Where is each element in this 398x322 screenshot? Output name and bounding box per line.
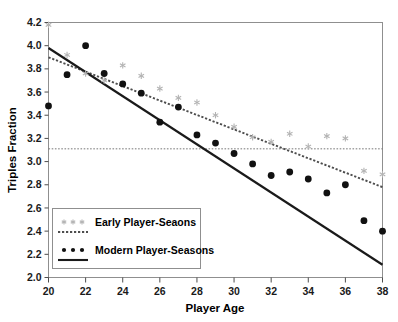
y-tick-label: 4.0 xyxy=(27,39,42,51)
y-tick-label: 3.6 xyxy=(27,86,42,98)
data-point-circle xyxy=(138,90,145,97)
chart-legend: Early Player-SeaonsModern Player-Seasons xyxy=(53,209,215,269)
legend-marker xyxy=(71,248,75,252)
data-point-asterisk xyxy=(157,85,163,91)
x-tick-label: 20 xyxy=(43,285,55,297)
data-point-circle xyxy=(194,132,201,139)
legend-marker xyxy=(62,248,66,252)
data-point-asterisk xyxy=(306,143,312,149)
y-tick-label: 2.6 xyxy=(27,202,42,214)
y-axis-ticks: 2.02.22.42.62.83.03.23.43.63.84.04.2 xyxy=(27,16,49,283)
x-tick-label: 22 xyxy=(80,285,92,297)
y-tick-label: 3.2 xyxy=(27,132,42,144)
data-point-asterisk xyxy=(194,99,200,105)
data-point-circle xyxy=(231,150,238,157)
data-point-circle xyxy=(82,42,89,49)
data-point-circle xyxy=(64,71,71,78)
chart-figure: 2.02.22.42.62.83.03.23.43.63.84.04.2 202… xyxy=(0,0,398,322)
data-point-asterisk xyxy=(287,131,293,137)
data-point-circle xyxy=(119,81,126,88)
series-early-markers xyxy=(46,22,386,178)
data-point-circle xyxy=(305,176,312,183)
x-tick-label: 32 xyxy=(265,285,277,297)
legend-label: Modern Player-Seasons xyxy=(95,244,214,256)
data-point-circle xyxy=(212,140,219,147)
y-tick-label: 2.4 xyxy=(27,225,42,237)
x-axis-title: Player Age xyxy=(185,302,244,314)
y-tick-label: 2.0 xyxy=(27,271,42,283)
x-tick-label: 38 xyxy=(377,285,389,297)
x-axis-ticks: 20222426283032343638 xyxy=(43,278,389,297)
x-tick-label: 30 xyxy=(228,285,240,297)
data-point-asterisk xyxy=(343,135,349,141)
data-point-asterisk xyxy=(213,112,219,118)
data-point-asterisk xyxy=(64,52,70,58)
x-tick-label: 34 xyxy=(302,285,314,297)
data-point-asterisk xyxy=(139,73,145,79)
y-tick-label: 3.4 xyxy=(27,109,42,121)
y-tick-label: 2.8 xyxy=(27,178,42,190)
y-tick-label: 2.2 xyxy=(27,248,42,260)
data-point-circle xyxy=(101,70,108,77)
chart-canvas: 2.02.22.42.62.83.03.23.43.63.84.04.2 202… xyxy=(0,0,398,322)
x-tick-label: 36 xyxy=(340,285,352,297)
data-point-asterisk xyxy=(380,171,386,177)
data-point-circle xyxy=(156,119,163,126)
y-tick-label: 4.2 xyxy=(27,16,42,28)
data-point-circle xyxy=(379,228,386,235)
data-point-circle xyxy=(323,189,330,196)
data-point-circle xyxy=(175,104,182,111)
data-point-asterisk xyxy=(120,62,126,68)
data-point-circle xyxy=(268,172,275,179)
legend-label: Early Player-Seaons xyxy=(95,216,196,228)
y-tick-label: 3.0 xyxy=(27,155,42,167)
legend-marker xyxy=(80,248,84,252)
data-point-circle xyxy=(342,181,349,188)
data-point-asterisk xyxy=(176,95,182,101)
data-point-circle xyxy=(45,103,52,110)
data-point-circle xyxy=(286,169,293,176)
data-point-asterisk xyxy=(324,133,330,139)
series-modern-markers xyxy=(45,42,386,234)
data-point-circle xyxy=(249,161,256,168)
data-point-asterisk xyxy=(361,168,367,174)
x-tick-label: 26 xyxy=(154,285,166,297)
x-tick-label: 28 xyxy=(191,285,203,297)
x-tick-label: 24 xyxy=(117,285,129,297)
data-point-circle xyxy=(361,217,368,224)
trend-line xyxy=(49,57,383,187)
y-axis-title: Triples Fraction xyxy=(6,107,18,193)
y-tick-label: 3.8 xyxy=(27,62,42,74)
